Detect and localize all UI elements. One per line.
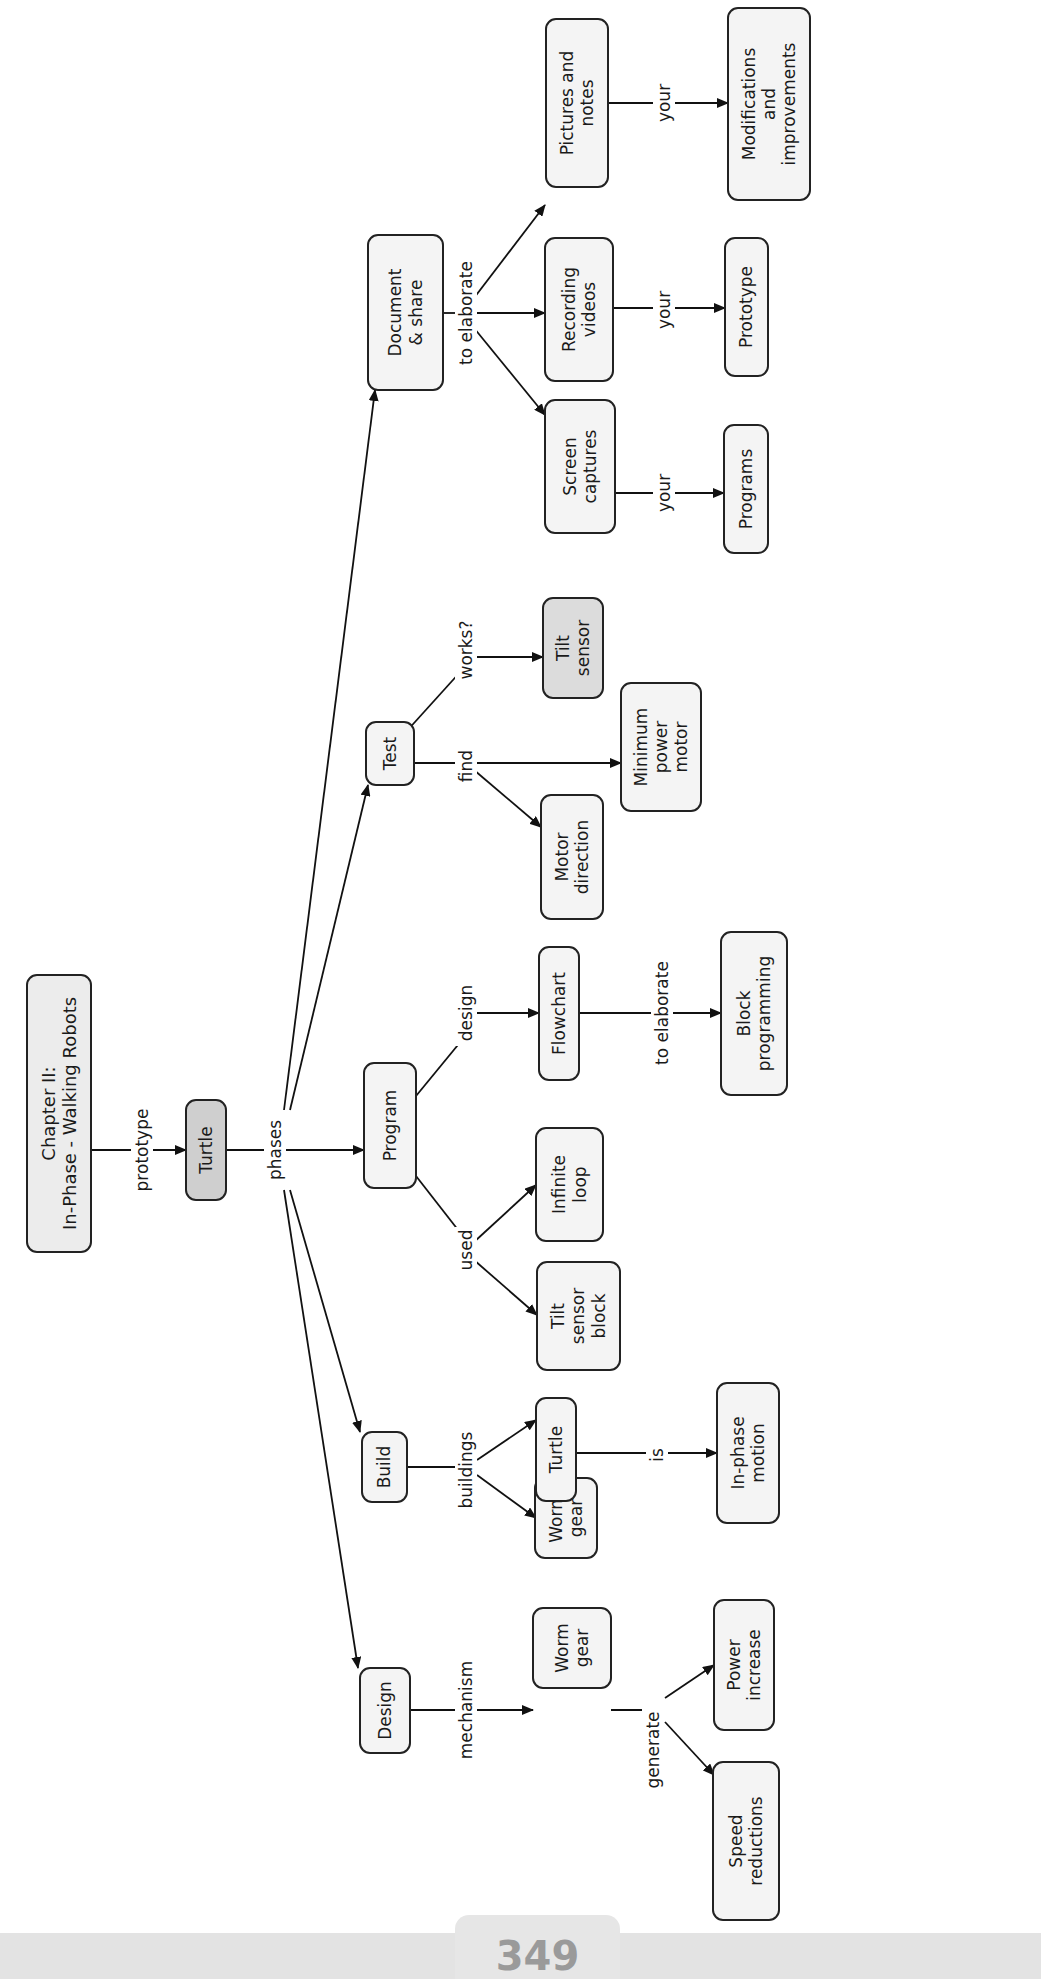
edge-program-to-used [416,1176,462,1235]
edge-generate-to-speed_reductions [665,1722,714,1775]
node-screen-captures[interactable]: Screencaptures [545,400,615,533]
edge-program-to-design_lbl [416,1040,462,1096]
node-build[interactable]: Build [362,1432,407,1502]
edge-buildings-to-turtle_build [477,1420,536,1460]
edge-label-to-elaborate-doc: to elaborate [456,261,476,365]
node-motor-direction[interactable]: Motordirection [541,795,603,919]
edge-elab-to-screen_captures [474,328,545,415]
node-label: In-phasemotion [728,1416,768,1489]
edge-elab-to-pictures_notes [474,205,545,298]
node-block-programming[interactable]: Blockprogramming [721,932,787,1095]
edge-label-works: works? [456,620,476,679]
edge-label-is: is [647,1448,667,1462]
edge-generate-to-power_increase [665,1665,714,1698]
node-label: Document& share [385,268,425,356]
node-worm-gear-design[interactable]: Wormgear [533,1608,611,1688]
edge-label-your-programs: your [654,474,674,512]
node-power-increase[interactable]: Powerincrease [714,1600,774,1730]
node-program[interactable]: Program [364,1063,416,1188]
edge-label-find: find [456,750,476,782]
edge-label-prototype: prototype [132,1109,152,1192]
node-flowchart[interactable]: Flowchart [539,947,579,1080]
node-label: Powerincrease [724,1629,764,1701]
node-turtle-build[interactable]: Turtle [536,1398,576,1501]
edge-used-to-tilt_sensor_block [474,1260,537,1315]
node-tilt-sensor-block[interactable]: Tiltsensorblock [537,1262,620,1370]
edge-label-phases: phases [265,1120,285,1180]
node-minimum-power-motor[interactable]: Minimumpowermotor [621,683,701,811]
edge-label-buildings: buildings [456,1431,476,1508]
edge-phases-to-document [284,390,375,1110]
node-label: Design [375,1681,395,1740]
edge-label-design: design [456,985,476,1041]
node-pictures-notes[interactable]: Pictures andnotes [546,19,608,187]
edge-buildings-to-worm_gear_build [477,1475,536,1518]
node-label: Programs [736,449,756,530]
node-label: Test [380,736,400,771]
node-root[interactable]: Chapter II:In-Phase - Walking Robots [27,975,91,1252]
node-tilt-sensor[interactable]: Tiltsensor [543,598,603,698]
node-design[interactable]: Design [360,1668,410,1753]
nodes-layer: Chapter II:In-Phase - Walking RobotsTurt… [27,8,810,1920]
edge-phases-to-test [290,785,368,1110]
concept-map-svg: Chapter II:In-Phase - Walking RobotsTurt… [0,0,1041,1979]
node-label: Flowchart [549,972,569,1055]
edge-test-to-works_lbl [405,670,462,733]
node-label: Screencaptures [560,429,600,503]
node-test[interactable]: Test [366,722,414,785]
edge-label-used: used [456,1230,476,1271]
node-label: Build [374,1446,394,1489]
node-in-phase-motion[interactable]: In-phasemotion [717,1383,779,1523]
node-turtle[interactable]: Turtle [186,1100,226,1200]
edge-phases-to-design [284,1190,358,1668]
node-label: Turtle [546,1426,566,1474]
edge-find_lbl-to-motor_direction [474,770,541,827]
node-infinite-loop[interactable]: Infiniteloop [536,1128,603,1241]
edge-phases-to-build [290,1190,360,1432]
node-label: Program [380,1090,400,1162]
edge-label-generate: generate [643,1711,663,1788]
node-speed-reductions[interactable]: Speedreductions [713,1762,779,1920]
edge-label-your-prototype: your [654,291,674,329]
node-prototype[interactable]: Prototype [725,238,768,376]
node-label: Prototype [736,266,756,348]
edge-label-mechanism: mechanism [456,1661,476,1759]
node-document[interactable]: Document& share [368,235,443,390]
node-label: Turtle [196,1126,216,1174]
node-programs[interactable]: Programs [724,425,768,553]
edge-label-your-modifications: your [654,84,674,122]
edge-used-to-infinite_loop [474,1185,536,1242]
node-modifications[interactable]: Modificationsandimprovements [728,8,810,200]
page-number: 349 [455,1933,620,1979]
node-label: Wormgear [552,1623,592,1672]
edge-label-to-elaborate-flow: to elaborate [652,961,672,1065]
node-recording-videos[interactable]: Recordingvideos [545,238,613,381]
concept-map: Chapter II:In-Phase - Walking RobotsTurt… [0,0,1041,1979]
